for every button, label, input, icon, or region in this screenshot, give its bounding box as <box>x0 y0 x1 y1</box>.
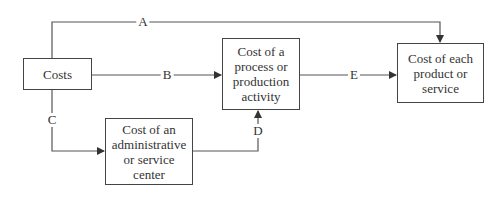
node-process: Cost of a process or production activity <box>222 38 300 110</box>
node-costs: Costs <box>23 58 92 90</box>
node-costs-label: Costs <box>43 67 72 82</box>
node-product: Cost of each product or service <box>397 43 484 103</box>
edge-e-label: E <box>348 68 360 82</box>
edge-b-label: B <box>161 68 174 82</box>
edge-c-line <box>52 90 104 151</box>
edge-a-label: A <box>136 15 149 29</box>
node-admin: Cost of an administrative or service cen… <box>105 118 193 185</box>
node-process-label: Cost of a process or production activity <box>227 44 295 104</box>
node-product-label: Cost of each product or service <box>404 51 477 96</box>
node-admin-label: Cost of an administrative or service cen… <box>108 122 190 182</box>
edge-c-label: C <box>46 113 59 127</box>
edge-d-line <box>193 111 258 151</box>
edge-d-label: D <box>251 124 264 138</box>
